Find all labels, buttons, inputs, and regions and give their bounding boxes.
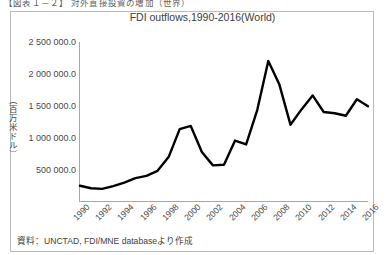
y-tick-label: 2 500 000.0	[28, 37, 76, 47]
y-tick-label: 1 000 000.0	[28, 133, 76, 143]
fdi-outflows-line-series	[80, 42, 368, 201]
chart-title: FDI outflows,1990-2016(World)	[0, 11, 387, 23]
source-note: 資料：UNCTAD, FDI/MNE databaseより作成	[17, 234, 193, 246]
plot-area: 500 000.01 000 000.01 500 000.02 000 000…	[79, 42, 368, 202]
y-tick-label: 500 000.0	[36, 165, 76, 175]
document-caption: 【図表１－２】 対外直接投資の増加（世界）	[4, 0, 191, 8]
y-axis-title: （百万米ドル）	[2, 96, 16, 159]
y-tick-label: 1 500 000.0	[28, 101, 76, 111]
y-tick-label: 2 000 000.0	[28, 69, 76, 79]
